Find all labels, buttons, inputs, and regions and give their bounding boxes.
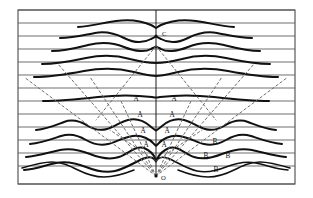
- label-a-4-right: A: [161, 141, 167, 149]
- point-o-label: O: [161, 174, 166, 181]
- label-b-3: B: [214, 166, 219, 174]
- label-a-1-left: A: [133, 95, 139, 103]
- label-b-1: B: [213, 138, 218, 146]
- label-b-2-left: B: [204, 152, 209, 160]
- label-a-3-right: A: [164, 127, 170, 135]
- point-c-dot: [154, 34, 157, 37]
- label-a-4-left: A: [143, 141, 149, 149]
- label-b-2-right: B: [226, 152, 231, 160]
- label-a-2-left: A: [137, 111, 143, 119]
- wave-interference-diagram: AAAAAAAABBBB CO: [0, 0, 313, 198]
- point-o-dot: [154, 174, 157, 177]
- label-a-2-right: A: [169, 111, 175, 119]
- figure-container: AAAAAAAABBBB CO: [0, 0, 313, 198]
- point-c-label: C: [162, 30, 167, 37]
- label-a-3-left: A: [140, 127, 146, 135]
- label-a-1-right: A: [171, 95, 177, 103]
